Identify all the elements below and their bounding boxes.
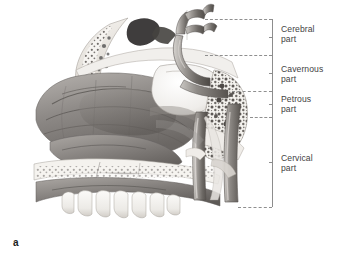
label-cervical-part: Cervical part <box>281 153 313 174</box>
label-cavernous-part: Cavernous part <box>281 64 323 85</box>
leader-line-cerebral <box>205 55 272 56</box>
leader-line-petrous <box>250 117 272 118</box>
bracket-tick-cervical <box>269 162 273 163</box>
anatomical-figure: Cerebral part Cavernous part Petrous par… <box>0 0 340 256</box>
bracket-tick-cerebral <box>269 37 273 38</box>
skull-base-illustration <box>0 0 272 232</box>
leader-line-cavernous <box>232 91 272 92</box>
label-cerebral-part: Cerebral part <box>281 24 315 45</box>
bracket-tick-cavernous <box>269 73 273 74</box>
bracket-tick-petrous <box>269 104 273 105</box>
label-petrous-part: Petrous part <box>281 94 311 115</box>
leader-line-bottom <box>238 207 272 208</box>
figure-letter: a <box>13 237 19 248</box>
leader-line-top <box>205 19 272 20</box>
